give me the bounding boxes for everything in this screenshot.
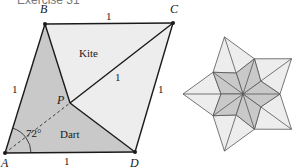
figure-canvas: B C A D P Kite Dart 72° 1 1 1 1 1 xyxy=(0,0,293,168)
edge-line xyxy=(5,152,135,153)
vertex-dot xyxy=(43,22,47,26)
kite-dart-rhombus: B C A D P Kite Dart 72° 1 1 1 1 1 xyxy=(0,2,179,168)
vertex-label-p: P xyxy=(56,93,65,107)
vertex-dot xyxy=(171,21,175,25)
region-label-dart: Dart xyxy=(60,128,80,140)
side-label-diagonal: 1 xyxy=(115,71,121,83)
vertex-label-b: B xyxy=(40,2,48,16)
edge-line xyxy=(45,23,173,24)
vertex-label-a: A xyxy=(0,156,9,168)
penrose-star-figure xyxy=(183,37,292,151)
vertex-label-c: C xyxy=(170,2,179,16)
side-label-left: 1 xyxy=(12,83,18,95)
side-label-bottom: 1 xyxy=(64,155,70,167)
vertex-dot xyxy=(133,150,137,154)
side-label-top: 1 xyxy=(106,10,112,22)
vertex-label-d: D xyxy=(129,156,139,168)
side-label-right: 1 xyxy=(158,83,164,95)
vertex-dot xyxy=(3,151,7,155)
angle-label: 72° xyxy=(26,127,41,139)
region-label-kite: Kite xyxy=(79,47,98,59)
